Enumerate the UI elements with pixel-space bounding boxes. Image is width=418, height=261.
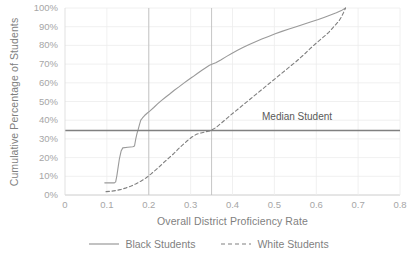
x-axis-tick-0-1: 0.1: [87, 199, 127, 210]
legend-label-white-students: White Students: [257, 238, 328, 250]
y-axis-tick-40pct: 40%: [14, 114, 58, 125]
plot-canvas: [65, 8, 400, 195]
x-axis-title: Overall District Proficiency Rate: [65, 215, 400, 227]
y-axis-tick-70pct: 70%: [14, 58, 58, 69]
x-axis-tick-0-8: 0.8: [380, 199, 418, 210]
plot-area: [65, 8, 400, 195]
chart-legend: Black Students White Students: [0, 238, 418, 250]
y-axis-tick-20pct: 20%: [14, 152, 58, 163]
median-student-annotation-label: Median Student: [262, 111, 332, 122]
cumulative-distribution-chart: Cumulative Percentage of Students Overal…: [0, 0, 418, 261]
y-axis-tick-30pct: 30%: [14, 133, 58, 144]
y-axis-tick-80pct: 80%: [14, 39, 58, 50]
y-axis-tick-50pct: 50%: [14, 96, 58, 107]
x-axis-tick-0-3: 0.3: [171, 199, 211, 210]
x-axis-tick-0: 0: [45, 199, 85, 210]
legend-item-black-students: Black Students: [89, 238, 195, 250]
series-line-black-students: [105, 8, 346, 183]
x-axis-tick-0-5: 0.5: [254, 199, 294, 210]
x-axis-tick-0-6: 0.6: [296, 199, 336, 210]
x-axis-tick-0-2: 0.2: [129, 199, 169, 210]
y-axis-tick-90pct: 90%: [14, 21, 58, 32]
series-line-white-students: [106, 8, 346, 192]
y-axis-tick-60pct: 60%: [14, 77, 58, 88]
y-axis-tick-10pct: 10%: [14, 170, 58, 181]
legend-label-black-students: Black Students: [125, 238, 195, 250]
y-axis-tick-100pct: 100%: [14, 2, 58, 13]
legend-item-white-students: White Students: [221, 238, 328, 250]
x-axis-tick-0-7: 0.7: [338, 199, 378, 210]
x-axis-tick-0-4: 0.4: [213, 199, 253, 210]
legend-swatch-solid-line-icon: [89, 239, 119, 249]
legend-swatch-dashed-line-icon: [221, 239, 251, 249]
